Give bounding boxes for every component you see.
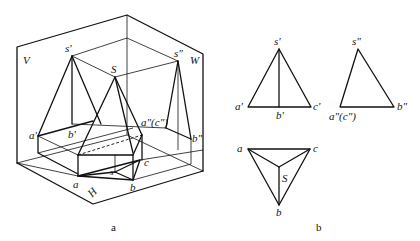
label-s: s: [110, 167, 114, 177]
label-c: c: [144, 156, 149, 168]
box-outline-top: [17, 15, 203, 171]
caption-b: b: [316, 221, 322, 233]
front-label-s: s': [274, 35, 281, 47]
plane-label-H: H: [84, 184, 100, 200]
diagram-canvas: V W H s' s" S a' b' a"(c") b" a b c s a …: [0, 0, 420, 241]
label-S: S: [111, 63, 117, 75]
projector-lines: [72, 38, 178, 77]
front-label-a: a': [235, 100, 244, 112]
label-s-dprime: s": [174, 47, 183, 59]
side-label-ac: a"(c"): [329, 110, 356, 123]
label-b: b: [130, 181, 136, 193]
label-ac-dprime: a"(c"): [141, 116, 168, 129]
top-label-S: S: [282, 172, 288, 184]
top-view: [248, 149, 310, 205]
front-view: [248, 49, 311, 107]
front-label-c: c': [313, 100, 321, 112]
label-b-prime: b': [68, 128, 77, 140]
top-label-a: a: [237, 142, 243, 154]
side-view: [340, 49, 394, 107]
side-label-s: s": [352, 35, 361, 47]
label-s-prime: s': [65, 42, 72, 54]
pyramid-3d: [17, 77, 203, 180]
side-label-b: b": [397, 100, 408, 112]
plane-label-W: W: [190, 54, 200, 66]
front-projection-V: [38, 56, 101, 136]
label-a-prime: a': [29, 129, 38, 141]
side-projection-W: [166, 61, 191, 164]
label-a: a: [73, 178, 79, 190]
label-b-dprime: b": [192, 132, 203, 144]
caption-a: a: [111, 221, 116, 233]
plane-label-V: V: [23, 54, 31, 66]
top-label-b: b: [276, 206, 282, 218]
front-label-b: b': [276, 109, 285, 121]
top-label-c: c: [313, 142, 318, 154]
